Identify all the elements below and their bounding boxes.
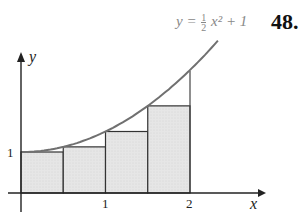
fraction-denominator: 2 [201,23,206,32]
problem-number: 48. [271,9,299,35]
equation-fraction: 1 2 [201,13,206,32]
y-axis-label: y [29,48,36,66]
equation-label: y = 1 2 x² + 1 [176,13,247,32]
riemann-rectangle [63,147,105,193]
riemann-rectangle [21,152,63,193]
riemann-rectangle [106,132,148,194]
y-tick-1: 1 [7,145,14,161]
x-tick-1: 1 [102,196,109,212]
riemann-sum-diagram [0,0,302,216]
x-axis-arrow-icon [258,189,266,197]
y-axis-arrow-icon [17,52,25,62]
riemann-rectangle [148,106,190,193]
equation-rhs: x² + 1 [211,13,247,29]
x-axis-label: x [250,195,257,213]
equation-lhs: y = [176,13,197,29]
x-tick-2: 2 [186,196,193,212]
